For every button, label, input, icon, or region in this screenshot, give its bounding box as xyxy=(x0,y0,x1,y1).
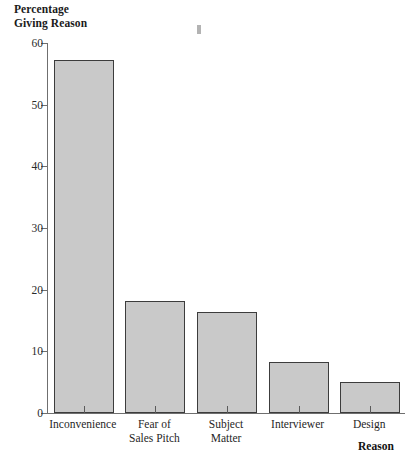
scan-artifact-speck xyxy=(197,25,201,34)
y-tick-label: 10 xyxy=(32,345,44,357)
x-tick-mark xyxy=(155,406,156,413)
chart-figure: Percentage Giving Reason 0102030405060 I… xyxy=(0,0,412,457)
y-tick-label: 50 xyxy=(32,99,44,111)
plot-area: 0102030405060 xyxy=(47,43,405,414)
x-axis-title: Reason xyxy=(358,440,394,452)
y-axis-title-text: Percentage Giving Reason xyxy=(14,3,87,29)
bar xyxy=(197,312,257,413)
x-tick-mark xyxy=(84,406,85,413)
y-tick-label: 60 xyxy=(32,37,44,49)
x-axis-label: Design xyxy=(327,417,411,431)
bar-series xyxy=(47,43,405,414)
y-tick-label: 20 xyxy=(32,284,44,296)
x-axis-title-text: Reason xyxy=(358,440,394,452)
x-tick-mark xyxy=(227,406,228,413)
y-axis-title: Percentage Giving Reason xyxy=(14,3,134,30)
y-tick-label: 40 xyxy=(32,160,44,172)
x-tick-mark xyxy=(370,406,371,413)
y-tick-label: 30 xyxy=(32,222,44,234)
bar xyxy=(54,60,114,413)
bar xyxy=(125,301,185,413)
x-tick-mark xyxy=(299,406,300,413)
